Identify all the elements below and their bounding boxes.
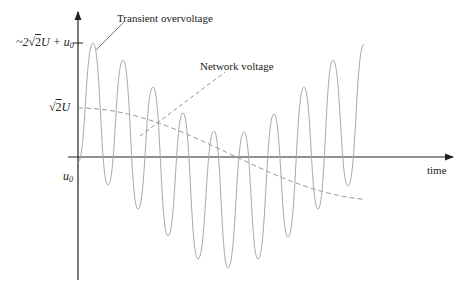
network-leader-line xyxy=(140,72,225,136)
y-tick-label-network-peak: √2U xyxy=(49,100,70,115)
transient-overvoltage-curve xyxy=(78,43,364,268)
transient-label: Transient overvoltage xyxy=(117,12,213,24)
network-voltage-curve xyxy=(78,108,364,199)
transient-leader-line xyxy=(96,22,124,50)
y-tick-label-offset: u0 xyxy=(63,169,73,184)
network-label: Network voltage xyxy=(200,60,274,72)
time-axis-label: time xyxy=(427,164,447,176)
y-tick-label-peak: ~2√2U + u0 xyxy=(16,35,74,50)
